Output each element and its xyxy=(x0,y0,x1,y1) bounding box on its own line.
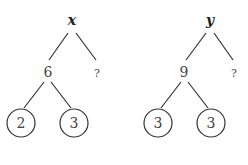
root-label: y xyxy=(205,12,215,28)
root-label: x xyxy=(67,12,77,28)
edge-root-to-unknown xyxy=(76,33,96,60)
factor-tree-y: y 9 ? 3 3 xyxy=(144,12,237,137)
leaf-label-2: 3 xyxy=(70,115,79,131)
factor-tree-x: x 6 ? 2 3 xyxy=(7,12,100,137)
middle-label: 6 xyxy=(44,64,53,80)
edge-middle-to-leaf-2 xyxy=(51,82,71,108)
edge-middle-to-leaf-2 xyxy=(188,82,208,108)
unknown-label: ? xyxy=(231,67,237,80)
edge-root-to-middle xyxy=(186,33,206,60)
unknown-label: ? xyxy=(94,67,100,80)
leaf-label-2: 3 xyxy=(207,115,216,131)
edge-root-to-unknown xyxy=(214,33,233,60)
leaf-label-1: 3 xyxy=(154,115,163,131)
leaf-label-1: 2 xyxy=(17,115,26,131)
edge-middle-to-leaf-1 xyxy=(161,82,181,108)
factor-tree-diagram: x 6 ? 2 3 y 9 ? 3 3 xyxy=(0,0,248,165)
edge-root-to-middle xyxy=(49,33,68,60)
edge-middle-to-leaf-1 xyxy=(24,82,44,108)
middle-label: 9 xyxy=(180,64,189,80)
